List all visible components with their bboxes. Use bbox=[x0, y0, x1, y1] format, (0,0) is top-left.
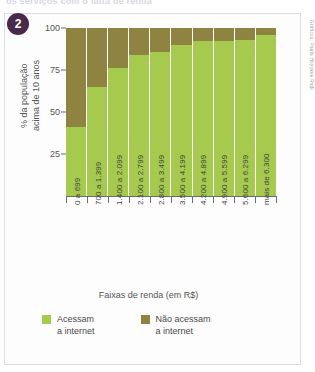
x-tick-label: 4.900 a 5.599 bbox=[219, 155, 228, 205]
x-tick-mark bbox=[108, 197, 109, 203]
bar-segment-nao-acessam bbox=[108, 28, 128, 68]
legend-item-nao-acessam: Não acessam a internet bbox=[141, 314, 211, 337]
legend-label-acessam: Acessam a internet bbox=[57, 314, 95, 337]
x-tick-label: 2.800 a 3.499 bbox=[156, 155, 165, 205]
y-axis-ticks: 255075100 bbox=[36, 18, 66, 198]
bar-segment-nao-acessam bbox=[235, 28, 255, 40]
x-tick-label: 0 a 699 bbox=[72, 178, 81, 205]
x-tick-label: 3.500 a 4.199 bbox=[177, 155, 186, 205]
bar-segment-nao-acessam bbox=[214, 28, 234, 41]
y-tick-label: 75 bbox=[50, 65, 60, 75]
y-tick-label: 100 bbox=[45, 23, 60, 33]
x-label-cell: 3.500 a 4.199 bbox=[171, 205, 192, 283]
x-tick-mark bbox=[276, 197, 277, 203]
chart-legend: Acessam a internetNão acessam a internet bbox=[42, 314, 211, 337]
bar-segment-nao-acessam bbox=[87, 28, 107, 87]
x-label-cell: 4.200 a 4.899 bbox=[192, 205, 213, 283]
x-tick-mark bbox=[66, 197, 67, 203]
x-axis-title: Faixas de renda (em R$) bbox=[0, 290, 297, 300]
bar-segment-nao-acessam bbox=[129, 28, 149, 55]
x-tick-mark bbox=[129, 197, 130, 203]
legend-label-nao-acessam: Não acessam a internet bbox=[156, 314, 211, 337]
x-tick-mark bbox=[150, 197, 151, 203]
x-label-cell: 5.600 a 6.299 bbox=[234, 205, 255, 283]
x-label-cell: 2.100 a 2.799 bbox=[129, 205, 150, 283]
y-tick-label: 25 bbox=[50, 149, 60, 159]
x-tick-label: 2.100 a 2.799 bbox=[135, 155, 144, 205]
x-tick-label: mais de 6.300 bbox=[261, 153, 270, 205]
bar-segment-nao-acessam bbox=[66, 28, 86, 127]
bar-segment-nao-acessam bbox=[256, 28, 276, 35]
x-tick-label: 5.600 a 6.299 bbox=[240, 155, 249, 205]
bar-column bbox=[66, 28, 87, 196]
y-tick-label: 50 bbox=[50, 107, 60, 117]
x-tick-mark bbox=[87, 197, 88, 203]
x-tick-label: 4.200 a 4.899 bbox=[198, 155, 207, 205]
legend-swatch-acessam bbox=[42, 315, 51, 324]
x-tick-label: 1.400 a 2.099 bbox=[114, 155, 123, 205]
bar-segment-nao-acessam bbox=[150, 28, 170, 52]
x-label-cell: 2.800 a 3.499 bbox=[150, 205, 171, 283]
x-label-cell: mais de 6.300 bbox=[255, 205, 276, 283]
x-label-cell: 700 a 1.399 bbox=[87, 205, 108, 283]
plot-area: % da população acima de 10 anos 25507510… bbox=[0, 0, 297, 352]
chart-page: os serviços com o falta de renda 2 Gráfi… bbox=[0, 0, 315, 372]
x-tick-label: 700 a 1.399 bbox=[93, 162, 102, 205]
x-tick-mark bbox=[234, 197, 235, 203]
legend-swatch-nao-acessam bbox=[141, 315, 150, 324]
x-label-cell: 1.400 a 2.099 bbox=[108, 205, 129, 283]
x-axis-labels: 0 a 699700 a 1.3991.400 a 2.0992.100 a 2… bbox=[66, 205, 276, 283]
x-tick-mark bbox=[213, 197, 214, 203]
bar-segment-nao-acessam bbox=[171, 28, 191, 45]
legend-item-acessam: Acessam a internet bbox=[42, 314, 95, 337]
x-label-cell: 4.900 a 5.599 bbox=[213, 205, 234, 283]
bar-segment-nao-acessam bbox=[193, 28, 213, 41]
credit-text: Gráficos: Paula Hoyokee Radi bbox=[309, 20, 314, 90]
x-label-cell: 0 a 699 bbox=[66, 205, 87, 283]
x-tick-mark bbox=[255, 197, 256, 203]
x-tick-mark bbox=[192, 197, 193, 203]
x-tick-mark bbox=[171, 197, 172, 203]
